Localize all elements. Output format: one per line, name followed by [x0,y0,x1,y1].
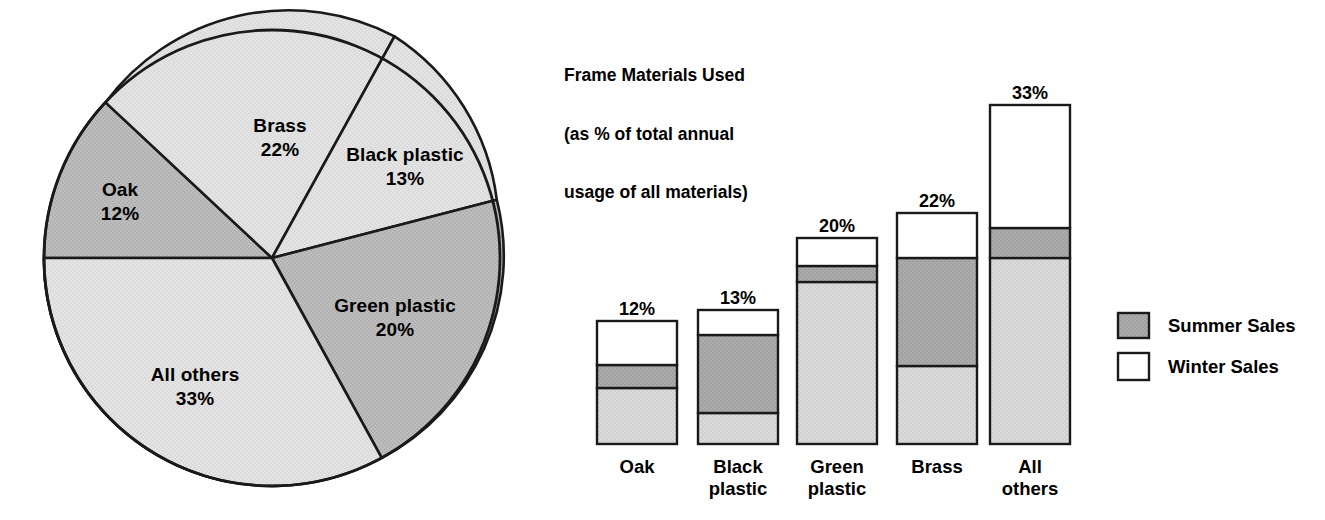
bar-black-plastic-segment-summer [698,335,778,413]
bar-black-plastic-segment-other [698,413,778,444]
figure-root: Brass 22% Black plastic 13% Green plasti… [0,0,1325,520]
bar-black-plastic [698,310,778,444]
bar-all-others-segment-summer [990,228,1070,258]
bar-oak-segment-other [597,388,677,444]
bar-all-others [990,105,1070,444]
bar-green-plastic-segment-other [797,282,877,444]
bar-brass-segment-winter [897,213,977,258]
pie-label-oak: Oak 12% [60,178,180,226]
pie-chart [0,0,560,520]
legend-swatch-winter [1118,353,1149,380]
bar-green-plastic-segment-summer [797,266,877,282]
pie-label-green-plastic: Green plastic 20% [310,294,480,342]
bar-green-plastic-segment-winter [797,238,877,266]
legend-label-summer-sales: Summer Sales [1168,315,1296,337]
bar-brass [897,213,977,444]
legend-swatch-summer [1118,313,1149,338]
bar-all-others-segment-winter [990,105,1070,228]
bar-value-black-plastic: 13% [698,288,778,309]
bar-black-plastic-segment-winter [698,310,778,335]
bar-value-green-plastic: 20% [797,216,877,237]
bar-oak [597,321,677,444]
bar-category-brass: Brass [887,456,987,478]
bar-all-others-segment-other [990,258,1070,444]
bar-value-oak: 12% [597,299,677,320]
pie-label-all-others: All others 33% [115,363,275,411]
bar-category-all-others: All others [980,456,1080,500]
bar-green-plastic [797,238,877,444]
legend-label-winter-sales: Winter Sales [1168,356,1279,378]
pie-label-black-plastic: Black plastic 13% [320,143,490,191]
bar-brass-segment-summer [897,258,977,366]
bar-brass-segment-other [897,366,977,444]
bar-oak-segment-summer [597,365,677,388]
bar-category-green-plastic: Green plastic [787,456,887,500]
bar-oak-segment-winter [597,321,677,365]
bar-category-oak: Oak [587,456,687,478]
bar-value-brass: 22% [897,191,977,212]
bar-value-all-others: 33% [990,83,1070,104]
bar-chart [560,0,1325,520]
pie-slices [44,10,504,486]
bar-category-black-plastic: Black plastic [688,456,788,500]
